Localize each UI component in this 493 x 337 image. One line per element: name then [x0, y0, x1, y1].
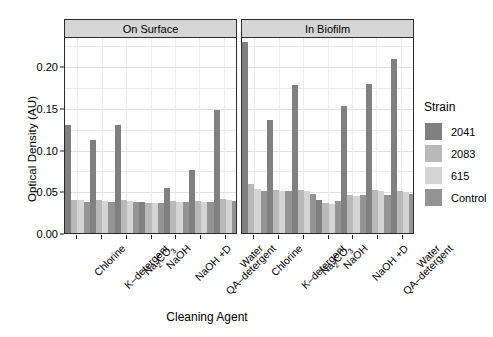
y-axis-tick-labels: 0.000.050.100.150.20 — [22, 0, 64, 337]
bar-group — [267, 38, 292, 233]
legend-items: 20412083615Control — [424, 122, 493, 207]
legend-label: Control — [451, 192, 486, 204]
legend-label: 2083 — [451, 148, 475, 160]
x-tick-mark — [151, 235, 152, 239]
bar-group — [366, 38, 391, 233]
legend-item[interactable]: 2041 — [424, 122, 493, 141]
bar-group — [189, 38, 214, 233]
facet-strip-in-biofilm: In Biofilm — [241, 19, 414, 38]
legend-label: 2041 — [451, 126, 475, 138]
y-tick-label: 0.00 — [37, 228, 58, 240]
x-tick-label: NaOH +D — [193, 242, 234, 283]
y-tick-label: 0.15 — [37, 103, 58, 115]
chart-root: Optical Density (AU) 0.000.050.100.150.2… — [0, 0, 493, 337]
facet-panel-in-biofilm: In Biofilm ChlorineK–detergentNa2CO3NaOH… — [241, 19, 414, 234]
bar-groups — [65, 38, 236, 233]
x-tick-mark — [126, 235, 127, 239]
legend: Strain 20412083615Control — [424, 100, 493, 210]
bar-group — [316, 38, 341, 233]
y-tick-label: 0.20 — [37, 61, 58, 73]
bar — [232, 201, 237, 233]
bar-group — [65, 38, 90, 233]
legend-swatch — [424, 188, 443, 207]
x-tick-mark — [253, 235, 254, 239]
x-tick-mark — [352, 235, 353, 239]
x-tick-mark — [76, 235, 77, 239]
x-tick-mark — [225, 235, 226, 239]
legend-title: Strain — [424, 100, 493, 114]
bar-group — [292, 38, 317, 233]
bar-group — [391, 38, 415, 233]
legend-swatch — [424, 144, 443, 163]
plot-area-in-biofilm — [241, 38, 414, 234]
bar-group — [139, 38, 164, 233]
facet-strip-on-surface: On Surface — [64, 19, 237, 38]
x-axis-labels-on-surface: ChlorineK–detergentNa2CO3NaOHNaOH +DQA–d… — [64, 240, 237, 300]
bar-group — [242, 38, 267, 233]
x-axis-labels-in-biofilm: ChlorineK–detergentNa2CO3NaOHNaOH +DQA–d… — [241, 240, 414, 300]
bar-group — [214, 38, 238, 233]
legend-swatch — [424, 122, 443, 141]
x-tick-mark — [200, 235, 201, 239]
y-tick-label: 0.05 — [37, 186, 58, 198]
bar-group — [164, 38, 189, 233]
legend-label: 615 — [451, 170, 469, 182]
facet-strip-label: On Surface — [123, 23, 179, 35]
legend-swatch — [424, 166, 443, 185]
x-tick-mark — [328, 235, 329, 239]
x-axis-title: Cleaning Agent — [0, 310, 414, 324]
x-tick-label: Chlorine — [92, 242, 128, 278]
x-tick-label: NaOH +D — [370, 242, 411, 283]
x-tick-mark — [101, 235, 102, 239]
x-tick-label: Chlorine — [269, 242, 305, 278]
x-tick-mark — [377, 235, 378, 239]
x-tick-mark — [175, 235, 176, 239]
plot-area-on-surface — [64, 38, 237, 234]
bar-group — [341, 38, 366, 233]
x-tick-mark — [402, 235, 403, 239]
legend-item[interactable]: 615 — [424, 166, 493, 185]
legend-item[interactable]: Control — [424, 188, 493, 207]
bar — [409, 194, 414, 233]
x-tick-mark — [303, 235, 304, 239]
bar-groups — [242, 38, 413, 233]
bar-group — [115, 38, 140, 233]
facet-strip-label: In Biofilm — [305, 23, 350, 35]
bar-group — [90, 38, 115, 233]
facet-panel-on-surface: On Surface ChlorineK–detergentNa2CO3NaOH… — [64, 19, 237, 234]
x-tick-mark — [278, 235, 279, 239]
y-tick-label: 0.10 — [37, 145, 58, 157]
legend-item[interactable]: 2083 — [424, 144, 493, 163]
